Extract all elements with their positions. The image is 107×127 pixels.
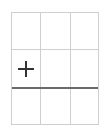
grid-cell-r1-c1[interactable] [12,13,40,49]
grid-cell-r1-c3[interactable] [71,13,99,49]
grid-cell-r1-c2[interactable] [41,13,70,49]
grid-cell-r3-c2[interactable] [41,89,70,124]
grid [11,12,99,125]
grid-cell-r2-c1[interactable] [12,50,40,87]
table-grid-picker [0,0,107,127]
grid-cell-r3-c1[interactable] [12,89,40,124]
grid-cell-r2-c2[interactable] [41,50,70,87]
grid-cell-r3-c3[interactable] [71,89,99,124]
grid-cell-r2-c3[interactable] [71,50,99,87]
plus-icon[interactable] [18,61,34,77]
